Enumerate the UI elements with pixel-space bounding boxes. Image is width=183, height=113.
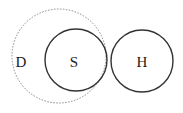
- venn-diagram: D S H: [0, 0, 183, 113]
- label-h: H: [137, 54, 148, 70]
- label-s: S: [70, 54, 78, 70]
- label-d: D: [16, 54, 27, 70]
